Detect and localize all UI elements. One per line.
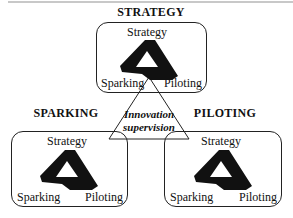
strategy-box: Strategy Sparking Piloting [96, 22, 207, 93]
sparking-box-label-piloting: Piloting [85, 190, 123, 205]
sparking-heading: SPARKING [16, 106, 116, 121]
strategy-box-label-piloting: Piloting [164, 76, 202, 91]
piloting-box: Strategy Sparking Piloting [164, 131, 282, 207]
strategy-heading: STRATEGY [101, 5, 201, 20]
sparking-box-label-strategy: Strategy [47, 134, 87, 149]
piloting-box-label-piloting: Piloting [239, 190, 277, 205]
strategy-shape-icon [120, 39, 180, 81]
piloting-shape-icon [194, 149, 254, 191]
strategy-box-label-sparking: Sparking [101, 76, 144, 91]
innovation-supervision-label: Innovation supervision [113, 108, 185, 134]
supervision-line: supervision [113, 121, 185, 134]
innovation-line: Innovation [113, 108, 185, 121]
piloting-box-label-strategy: Strategy [201, 134, 241, 149]
piloting-heading: PILOTING [175, 106, 275, 121]
sparking-shape-icon [40, 149, 100, 191]
sparking-box-label-sparking: Sparking [17, 190, 60, 205]
strategy-box-label-strategy: Strategy [127, 25, 167, 40]
piloting-box-label-sparking: Sparking [170, 190, 213, 205]
sparking-box: Strategy Sparking Piloting [11, 131, 128, 207]
